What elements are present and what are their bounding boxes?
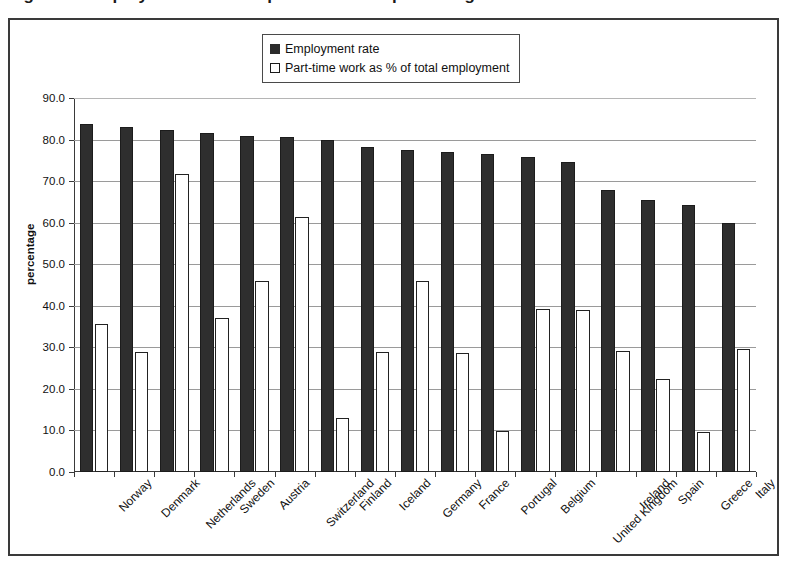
legend-label-employment-rate: Employment rate <box>285 42 379 56</box>
legend-label-part-time-work: Part-time work as % of total employment <box>285 61 509 75</box>
x-axis-labels: NorwayDenmarkNetherlandsSwedenAustriaSwi… <box>74 476 756 556</box>
bar-group <box>74 98 756 472</box>
bar-part-time-work <box>737 349 751 472</box>
bar-employment-rate <box>722 223 736 472</box>
x-axis-label: Greece <box>717 476 755 514</box>
filled-square-icon <box>270 44 280 54</box>
x-tick-mark <box>756 472 757 477</box>
page-title: Figure 1. Employment rate and part-time … <box>8 0 494 5</box>
y-tick-label: 60.0 <box>43 217 65 229</box>
y-tick-label: 30.0 <box>43 341 65 353</box>
x-axis-label: Germany <box>439 476 484 521</box>
x-axis-label: Portugal <box>518 476 560 518</box>
y-tick-label: 90.0 <box>43 92 65 104</box>
plot-area: 0.010.020.030.040.050.060.070.080.090.0 <box>74 98 756 472</box>
x-axis-label: Belgium <box>558 476 599 517</box>
x-axis-label: Norway <box>116 476 155 515</box>
x-axis-label: Iceland <box>396 476 433 513</box>
y-tick-label: 20.0 <box>43 383 65 395</box>
y-tick-label: 40.0 <box>43 300 65 312</box>
legend-item-part-time-work: Part-time work as % of total employment <box>270 58 509 77</box>
x-axis-label: Austria <box>275 476 311 512</box>
y-tick-label: 70.0 <box>43 175 65 187</box>
y-axis-title: percentage <box>24 224 36 285</box>
x-axis-label: Spain <box>675 476 707 508</box>
open-square-icon <box>270 63 280 73</box>
x-axis-label: Denmark <box>158 476 202 520</box>
x-axis-label: Italy <box>752 476 777 501</box>
y-tick-label: 10.0 <box>43 424 65 436</box>
x-axis-label: France <box>476 476 512 512</box>
y-tick-label: 80.0 <box>43 134 65 146</box>
y-tick-label: 0.0 <box>49 466 65 478</box>
chart-title-strip: Figure 1. Employment rate and part-time … <box>0 0 787 16</box>
legend-item-employment-rate: Employment rate <box>270 39 509 58</box>
chart-legend: Employment rate Part-time work as % of t… <box>262 34 520 83</box>
y-tick-label: 50.0 <box>43 258 65 270</box>
chart-frame: Employment rate Part-time work as % of t… <box>8 18 779 556</box>
